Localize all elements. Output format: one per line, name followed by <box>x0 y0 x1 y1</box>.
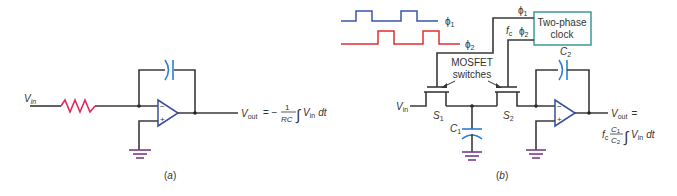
svg-text:RC: RC <box>281 115 293 124</box>
mosfet-switches-label-line1: MOSFET <box>451 57 493 68</box>
integrator-formula-b: Vout= fc C1 C2 ∫ Vindt <box>602 108 656 146</box>
caption-b: (b) <box>496 170 508 181</box>
phi2-label: ϕ2 <box>465 39 475 51</box>
panel-b-switched-capacitor-integrator: ϕ1 ϕ2 Two-phase clock ϕ1 fc ϕ2 MOSFET sw… <box>341 5 656 181</box>
phi1-waveform <box>341 11 438 21</box>
svg-text:−: − <box>557 102 562 111</box>
feedback-wire-left-a <box>139 70 165 106</box>
noninverting-input-sign: + <box>160 115 165 124</box>
mosfet-s2-icon <box>495 87 555 106</box>
panel-a-inverting-integrator: Vin − + Vout <box>24 60 328 181</box>
svg-text:1: 1 <box>285 103 290 112</box>
svg-text:Vout=: Vout= <box>611 108 637 120</box>
c2-wire-right <box>567 70 589 113</box>
s1-label: S1 <box>433 110 444 122</box>
svg-text:Vindt: Vindt <box>303 107 328 119</box>
svg-text:Vout: Vout <box>241 108 257 120</box>
ground-wire-b <box>536 121 555 150</box>
capacitor-icon <box>165 60 173 80</box>
ground-opamp-icon <box>526 150 546 158</box>
opamp-b-icon: − + <box>555 100 575 126</box>
c1-label: C1 <box>450 123 461 135</box>
fc-label: fc <box>506 25 513 37</box>
vin-label-a: Vin <box>24 93 36 105</box>
s2-label: S2 <box>503 110 514 122</box>
phi1-label: ϕ1 <box>445 16 455 28</box>
phi2-waveform <box>341 31 460 44</box>
mosfet-s1-icon <box>410 87 449 106</box>
svg-text:∫: ∫ <box>623 128 630 146</box>
svg-text:fc: fc <box>602 129 609 141</box>
ground-c1-icon <box>462 152 482 160</box>
two-phase-clock-box: Two-phase clock <box>534 12 591 45</box>
capacitor-c2-icon <box>559 60 567 80</box>
phi2-clock-output-label: ϕ2 <box>519 26 529 38</box>
svg-text:C1: C1 <box>611 125 621 134</box>
integrator-formula-a: Vout = − 1 RC ∫ Vindt <box>241 103 328 124</box>
feedback-wire-right-a <box>174 70 195 113</box>
svg-text:= −: = − <box>263 107 278 118</box>
resistor-icon <box>61 100 95 112</box>
svg-text:+: + <box>557 115 562 124</box>
opamp-icon: − + <box>158 100 178 126</box>
ground-wire-a <box>139 121 158 150</box>
output-node-b <box>587 111 591 115</box>
svg-text:clock: clock <box>551 29 575 40</box>
svg-text:C2: C2 <box>611 136 621 145</box>
phi1-clock-output-label: ϕ1 <box>518 5 528 17</box>
circuit-figure: Vin − + Vout <box>0 0 677 196</box>
c2-label: C2 <box>560 46 571 58</box>
mosfet-switches-label-line2: switches <box>453 69 491 80</box>
svg-text:Two-phase: Two-phase <box>538 17 587 28</box>
vin-label-b: Vin <box>396 101 408 113</box>
phi2-control-wire <box>508 40 534 87</box>
ground-icon <box>129 150 151 158</box>
svg-text:Vindt: Vindt <box>631 129 656 141</box>
output-node <box>193 111 197 115</box>
svg-text:∫: ∫ <box>295 106 302 124</box>
caption-a: (a) <box>164 170 176 181</box>
inverting-input-sign: − <box>160 102 165 111</box>
